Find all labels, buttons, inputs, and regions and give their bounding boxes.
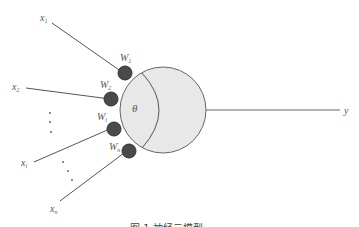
weight-label-1: W1 <box>120 52 131 64</box>
figure-caption: 图 1 神经元模型 <box>130 222 203 227</box>
input-label-2: x2 <box>11 81 19 93</box>
weight-node-n <box>122 144 136 158</box>
threshold-label: θ <box>132 102 138 114</box>
weight-label-2: W2 <box>100 79 111 91</box>
weight-node-2 <box>104 92 118 106</box>
neuron-diagram: x1 x2 xi xn W1 W2 Wi Wn θ y 图 1 神经元模型 <box>0 0 359 227</box>
weight-label-i: Wi <box>97 111 107 123</box>
input-line-n <box>60 150 128 201</box>
weight-label-n: Wn <box>109 141 120 153</box>
output-label: y <box>343 105 349 116</box>
ellipsis-dots-vertical <box>49 112 52 133</box>
input-line-2 <box>26 88 110 99</box>
input-label-1: x1 <box>39 12 47 24</box>
input-label-n: xn <box>49 203 57 215</box>
weight-node-1 <box>118 66 132 80</box>
input-label-i: xi <box>20 157 27 169</box>
input-line-i <box>34 128 112 162</box>
weight-node-i <box>107 122 121 136</box>
input-line-1 <box>52 23 122 72</box>
ellipsis-dots-diagonal <box>62 161 73 181</box>
